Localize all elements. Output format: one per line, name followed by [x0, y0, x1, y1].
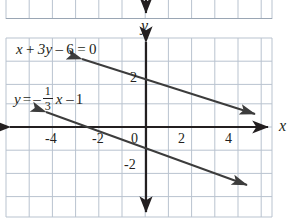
eq1-minus: –: [56, 41, 64, 57]
plotted-lines: [46, 59, 255, 185]
eq2-minus2: –: [66, 92, 74, 107]
fraction-numerator: 1: [43, 85, 53, 98]
fraction-denominator: 3: [43, 100, 53, 113]
y-axis-label: y: [141, 18, 148, 34]
x-tick-label-2: 2: [178, 131, 185, 147]
eq2-fraction-one-third: 1 3: [43, 85, 53, 112]
eq1-equals: =: [77, 41, 86, 57]
y-tick-label-neg2: -2: [124, 157, 136, 173]
eq1-term-x: x: [16, 41, 23, 57]
eq2-equals: =: [23, 92, 31, 107]
graph-figure: x+3y–6=0 y = – 1 3 x – 1 y x -4 -2 0 2 4…: [0, 0, 293, 222]
equation-label-line1: x+3y–6=0: [16, 42, 97, 57]
eq2-term-x: x: [56, 92, 63, 107]
eq2-minus-sign: –: [33, 92, 41, 107]
axes: [10, 42, 268, 212]
eq1-term-0: 0: [89, 41, 97, 57]
eq2-term-1: 1: [76, 92, 84, 107]
equation-label-line2: y = – 1 3 x – 1: [14, 86, 83, 113]
previous-figure-strip: [6, 0, 272, 19]
eq1-term-3y: 3y: [38, 41, 53, 57]
y-tick-label-2: 2: [130, 70, 137, 86]
eq1-term-6: 6: [66, 41, 74, 57]
eq1-plus: +: [26, 41, 35, 57]
x-tick-label-neg4: -4: [45, 131, 57, 147]
eq2-term-y: y: [14, 92, 21, 107]
origin-label-0: 0: [131, 131, 138, 147]
x-tick-label-4: 4: [225, 131, 232, 147]
x-axis-label: x: [279, 118, 286, 134]
x-tick-label-neg2: -2: [92, 131, 104, 147]
